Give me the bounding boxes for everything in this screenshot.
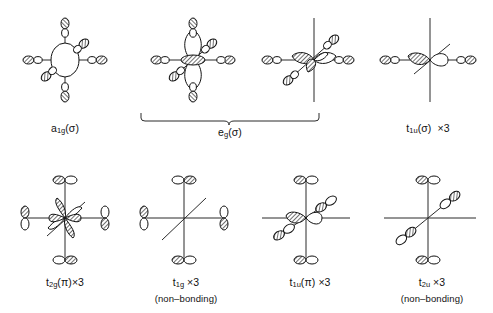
caption-multiplicity: ×3 (187, 276, 199, 288)
caption-note: (non–bonding) (155, 293, 218, 304)
ligand-pi-diag-upper (314, 194, 338, 214)
axes-group (144, 180, 224, 260)
orbital-cell-t1u-sigma (368, 4, 488, 116)
diagram-t1u-sigma (368, 4, 488, 116)
caption-suffix: (π) (57, 276, 72, 288)
axes-group (384, 180, 476, 260)
ligand-sigma-top (61, 18, 69, 37)
central-p-orbital (286, 212, 322, 224)
caption-subscript: 1g (176, 280, 184, 289)
caption-suffix: (σ) (418, 122, 432, 134)
orbital-diagram-figure: a1g(σ) (0, 0, 493, 313)
axes-group (262, 180, 350, 260)
ligand-sigma-diag-lower (281, 69, 300, 87)
ligand-sigma-left (380, 56, 399, 64)
ligand-pi-diag-lower (394, 225, 418, 246)
diagram-a1g (5, 4, 125, 116)
ligand-sigma-diag-lower (39, 65, 58, 83)
caption-t1u-sigma: t1u(σ) ×3 (368, 122, 488, 135)
ligand-sigma-bottom (189, 83, 197, 102)
ligand-sigma-diag-upper (72, 37, 91, 55)
caption-suffix: (σ) (228, 126, 242, 138)
brace-path (141, 113, 319, 125)
ligand-pi-diag-lower (272, 222, 296, 242)
ligand-sigma-diag-lower (167, 65, 186, 83)
ligand-sigma-bottom (61, 83, 69, 102)
caption-t2u: t2u ×3 (372, 276, 492, 289)
central-dz2-orbital (181, 30, 205, 90)
ligand-sigma-left (23, 56, 42, 64)
caption-a1g: a1g(σ) (5, 122, 125, 135)
diagram-t2g-pi (5, 170, 125, 270)
ligand-sigma-diag-upper (322, 33, 341, 51)
caption-t1u-pi: t1u(π) ×3 (250, 276, 370, 289)
orbital-cell-eg-2 (248, 4, 368, 116)
orbital-cell-t2g-pi (5, 170, 125, 270)
diagram-eg-dx2y2 (248, 4, 368, 116)
orbital-cell-eg-1 (133, 4, 253, 116)
caption-multiplicity: ×3 (438, 122, 450, 134)
central-p-orbital (408, 53, 448, 66)
ligand-sigma-right (217, 56, 235, 64)
caption-suffix: (σ) (65, 122, 79, 134)
orbital-cell-t1u-pi (250, 170, 370, 270)
caption-subscript: 1u (292, 280, 300, 289)
caption-subscript: 1u (409, 126, 417, 135)
orbital-cell-a1g (5, 4, 125, 116)
ligand-sigma-top (189, 18, 197, 37)
orbital-cell-t1g (126, 170, 246, 270)
caption-eg: eg(σ) (140, 126, 320, 139)
diagram-t2u (372, 170, 492, 270)
caption-subscript: 1g (57, 126, 65, 135)
orbital-cell-t2u (372, 170, 492, 270)
ligand-sigma-right (335, 56, 354, 64)
diagram-eg-dz2 (133, 4, 253, 116)
caption-multiplicity: ×3 (72, 276, 84, 288)
diagram-t1g (126, 170, 246, 270)
caption-t1g-note: (non–bonding) (126, 293, 246, 304)
ligand-pi-diag-upper (438, 189, 462, 210)
caption-multiplicity: ×3 (318, 276, 330, 288)
ligand-sigma-right (457, 56, 476, 64)
ligand-sigma-right (88, 56, 107, 64)
caption-t2g-pi: t2g(π)×3 (5, 276, 125, 289)
ligand-sigma-left (262, 56, 281, 64)
caption-suffix: (π) (301, 276, 316, 288)
caption-note: (non–bonding) (401, 293, 464, 304)
caption-multiplicity: ×3 (433, 276, 445, 288)
caption-t1g: t1g ×3 (126, 276, 246, 289)
ligand-sigma-left (151, 56, 169, 64)
ligand-sigma-diag-upper (200, 37, 219, 55)
caption-subscript: 2u (422, 280, 430, 289)
caption-t2u-note: (non–bonding) (372, 293, 492, 304)
eg-grouping-brace (140, 112, 320, 126)
diagram-t1u-pi (250, 170, 370, 270)
